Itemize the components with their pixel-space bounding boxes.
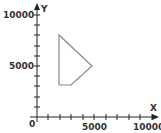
polygon-shape [59,35,92,85]
x-tick-label-10000: 10000 [133,122,161,132]
y-axis-arrow-icon [34,3,40,10]
x-axis-label: X [150,103,157,113]
x-tick-label-5000: 5000 [82,122,107,132]
y-axis-label: Y [40,4,48,14]
y-tick-label-10000: 10000 [3,10,34,20]
origin-label: 0 [29,119,35,129]
x-axis-arrow-icon [152,114,159,120]
y-tick-label-5000: 5000 [9,61,34,71]
chart: Y X 10000 5000 0 5000 10000 [0,0,161,133]
